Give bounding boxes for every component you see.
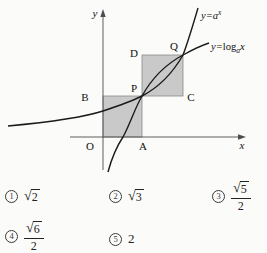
choice-3: 3 √5 2 [212, 181, 251, 212]
choice-5-value: 2 [128, 231, 135, 247]
choice-1-value: √2 [24, 189, 40, 204]
choice-3-value: √5 2 [231, 181, 251, 212]
choice-2: 2 √3 [109, 189, 144, 204]
choice-4: 4 √6 2 [5, 221, 44, 252]
choice-5: 5 2 [109, 231, 135, 247]
choice-2-number: 2 [109, 190, 122, 203]
choice-3-number: 3 [212, 190, 225, 203]
choice-2-value: √3 [128, 189, 144, 204]
choice-1-number: 1 [5, 190, 18, 203]
choice-5-number: 5 [109, 233, 122, 246]
choice-1: 1 √2 [5, 189, 40, 204]
choice-4-number: 4 [5, 230, 18, 243]
choice-4-value: √6 2 [24, 221, 44, 252]
